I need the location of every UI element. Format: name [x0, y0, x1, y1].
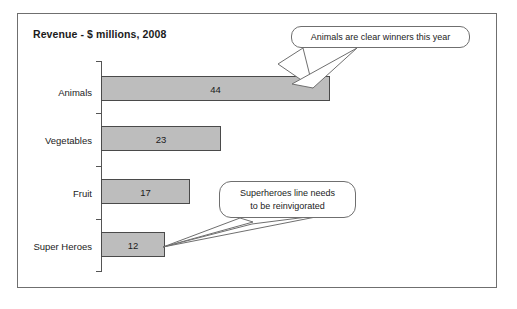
- bar-value-vegetables: 23: [101, 134, 221, 145]
- callout-superheroes-line1: Superheroes line needs: [240, 188, 335, 198]
- axis-tick: [96, 271, 101, 272]
- category-label-fruit: Fruit: [30, 188, 92, 199]
- callout-superheroes-text: Superheroes line needs to be reinvigorat…: [240, 187, 335, 211]
- bar-value-fruit: 17: [101, 187, 190, 198]
- chart-figure: Revenue - $ millions, 2008 Animals 44 Ve…: [0, 0, 517, 309]
- axis-tick: [96, 61, 101, 62]
- axis-tick: [96, 113, 101, 114]
- bar-value-animals: 44: [101, 84, 330, 95]
- callout-animals-winner[interactable]: Animals are clear winners this year: [291, 26, 470, 48]
- axis-tick: [96, 219, 101, 220]
- category-label-vegetables: Vegetables: [18, 135, 92, 146]
- axis-tick: [96, 166, 101, 167]
- callout-superheroes-line2: to be reinvigorated: [250, 201, 325, 211]
- category-label-super-heroes: Super Heroes: [10, 241, 92, 252]
- category-label-animals: Animals: [30, 87, 92, 98]
- callout-superheroes-reinvigorate[interactable]: Superheroes line needs to be reinvigorat…: [219, 181, 356, 218]
- callout-animals-text: Animals are clear winners this year: [311, 31, 451, 43]
- bar-value-super-heroes: 12: [101, 240, 165, 251]
